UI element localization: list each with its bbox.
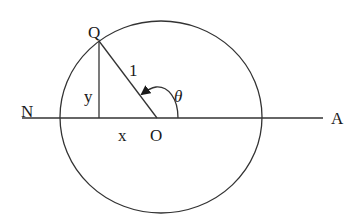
label-x: x: [118, 126, 127, 145]
label-A: A: [331, 109, 344, 128]
label-N: N: [21, 102, 33, 121]
unit-circle-diagram: Q 1 y θ N x O A: [0, 0, 362, 223]
label-theta: θ: [174, 87, 182, 106]
label-Q: Q: [88, 23, 100, 42]
label-O: O: [150, 126, 162, 145]
radius-QO: [99, 41, 157, 118]
angle-arc-arrow-icon: [142, 87, 178, 118]
label-radius: 1: [129, 61, 138, 80]
label-y: y: [84, 87, 93, 106]
circle: [60, 21, 262, 213]
